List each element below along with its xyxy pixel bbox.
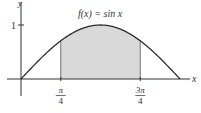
chart-title: f(x) = sin x — [78, 8, 123, 20]
y-axis-label: y — [17, 0, 22, 8]
x-tick-label-numerator: π — [58, 85, 63, 95]
x-axis-label: x — [191, 73, 197, 84]
x-tick-label-denominator: 4 — [59, 96, 64, 106]
chart: 1 y x f(x) = sin x π43π4 — [0, 0, 201, 113]
y-tick-label: 1 — [11, 20, 16, 31]
x-tick-label-denominator: 4 — [138, 96, 143, 106]
x-tick-label-numerator: 3π — [135, 85, 146, 95]
